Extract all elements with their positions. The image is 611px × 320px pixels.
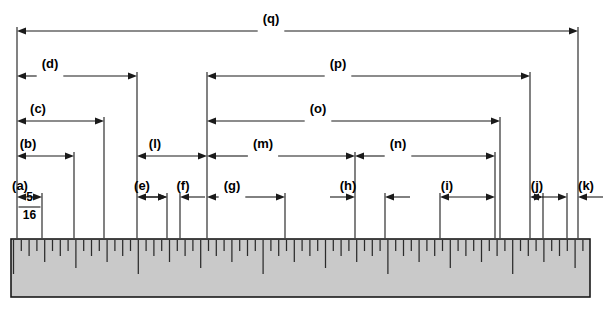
arrowhead-right-o [491,118,500,125]
arrowhead-right-p [521,73,530,80]
arrowhead-left-l [137,153,146,160]
ruler-body [11,239,590,297]
arrowhead-right-f [180,194,189,201]
arrowhead-left-m [207,153,216,160]
arrowhead-right-k [578,194,587,201]
arrowhead-right-i [486,194,495,201]
dimension-label-c: (c) [30,101,46,116]
dimension-label-i: (i) [441,178,453,193]
arrowhead-left-q [17,28,26,35]
dimension-label-k: (k) [578,178,594,193]
dimension-q: (q) [17,11,578,34]
dimension-d: (d) [17,56,137,79]
dimension-label-p: (p) [330,56,347,71]
arrowhead-right-h [385,194,394,201]
dimension-label-m: (m) [253,136,273,151]
arrowhead-left-n [355,153,364,160]
dimension-m: (m) [207,136,355,159]
dimension-label-f: (f) [177,178,190,193]
dimension-g: (g) [207,178,285,200]
arrowhead-left-k [558,194,567,201]
dimension-label-q: (q) [263,11,280,26]
arrowhead-right-b [65,153,74,160]
dimension-label-j: (j) [531,178,543,193]
arrowhead-right-d [128,73,137,80]
dimension-n: (n) [355,136,495,159]
arrowhead-left-b [17,153,26,160]
dimension-label-n: (n) [390,136,407,151]
dimension-l: (l) [137,136,207,159]
dimension-label-l: (l) [149,136,161,151]
ruler-group [11,239,590,297]
dimension-f: (f) [142,178,205,200]
arrowhead-right-q [569,28,578,35]
dimension-b: (b) [17,136,74,159]
dimension-lines-group: (a)(b)(c)(d)(e)(f)(g)(h)(i)(j)(k)(l)(m)(… [12,11,603,200]
arrowhead-right-m [346,153,355,160]
arrowhead-right-a [33,194,42,201]
dimension-p: (p) [207,56,530,79]
arrowhead-left-a [17,194,26,201]
arrowhead-left-i [440,194,449,201]
arrowhead-left-d [17,73,26,80]
dimension-label-d: (d) [42,56,59,71]
dimension-label-o: (o) [310,101,327,116]
diagram-canvas: (a)(b)(c)(d)(e)(f)(g)(h)(i)(j)(k)(l)(m)(… [0,0,611,320]
arrowhead-right-l [198,153,207,160]
arrowhead-right-g [276,194,285,201]
dimension-label-e: (e) [134,178,150,193]
dimension-h: (h) [330,178,410,200]
dimension-o: (o) [207,101,500,124]
arrowhead-right-c [95,118,104,125]
arrowhead-left-o [207,118,216,125]
arrowhead-right-n [486,153,495,160]
dimension-label-g: (g) [224,178,241,193]
dimension-j: (j) [530,178,543,200]
dimension-c: (c) [17,101,104,124]
dimension-label-b: (b) [20,136,37,151]
fraction-numerator: 5 [26,190,33,204]
arrowhead-left-h [346,194,355,201]
fraction-denominator: 16 [23,208,37,222]
fraction-label-group: 516 [19,190,41,222]
extension-lines-group [17,27,578,238]
dimension-i: (i) [440,178,495,200]
dimension-label-h: (h) [340,178,357,193]
arrowhead-left-g [207,194,216,201]
arrowhead-left-c [17,118,26,125]
dimension-k: (k) [542,178,603,200]
ruler-dimension-diagram: (a)(b)(c)(d)(e)(f)(g)(h)(i)(j)(k)(l)(m)(… [0,0,611,320]
arrowhead-left-p [207,73,216,80]
arrowhead-left-f [158,194,167,201]
